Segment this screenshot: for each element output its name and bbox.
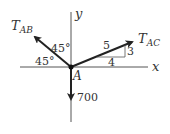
slope-run-label: 4: [108, 56, 115, 69]
slope-hyp-label: 5: [103, 39, 110, 52]
slope-rise-label: 3: [127, 45, 134, 58]
free-body-diagram: TAB TAC 45° 45° 5 3 4 700 A x y: [0, 0, 170, 134]
x-axis-label: x: [152, 59, 160, 74]
y-axis-label: y: [74, 6, 83, 21]
point-a-label: A: [72, 69, 82, 83]
weight-label: 700: [77, 91, 98, 104]
t-ac-arrow: [71, 42, 132, 67]
angle-upper-label: 45°: [51, 42, 71, 55]
t-ab-label: TAB: [11, 18, 33, 35]
t-ac-label: TAC: [138, 31, 160, 48]
angle-lower-label: 45°: [35, 55, 55, 68]
